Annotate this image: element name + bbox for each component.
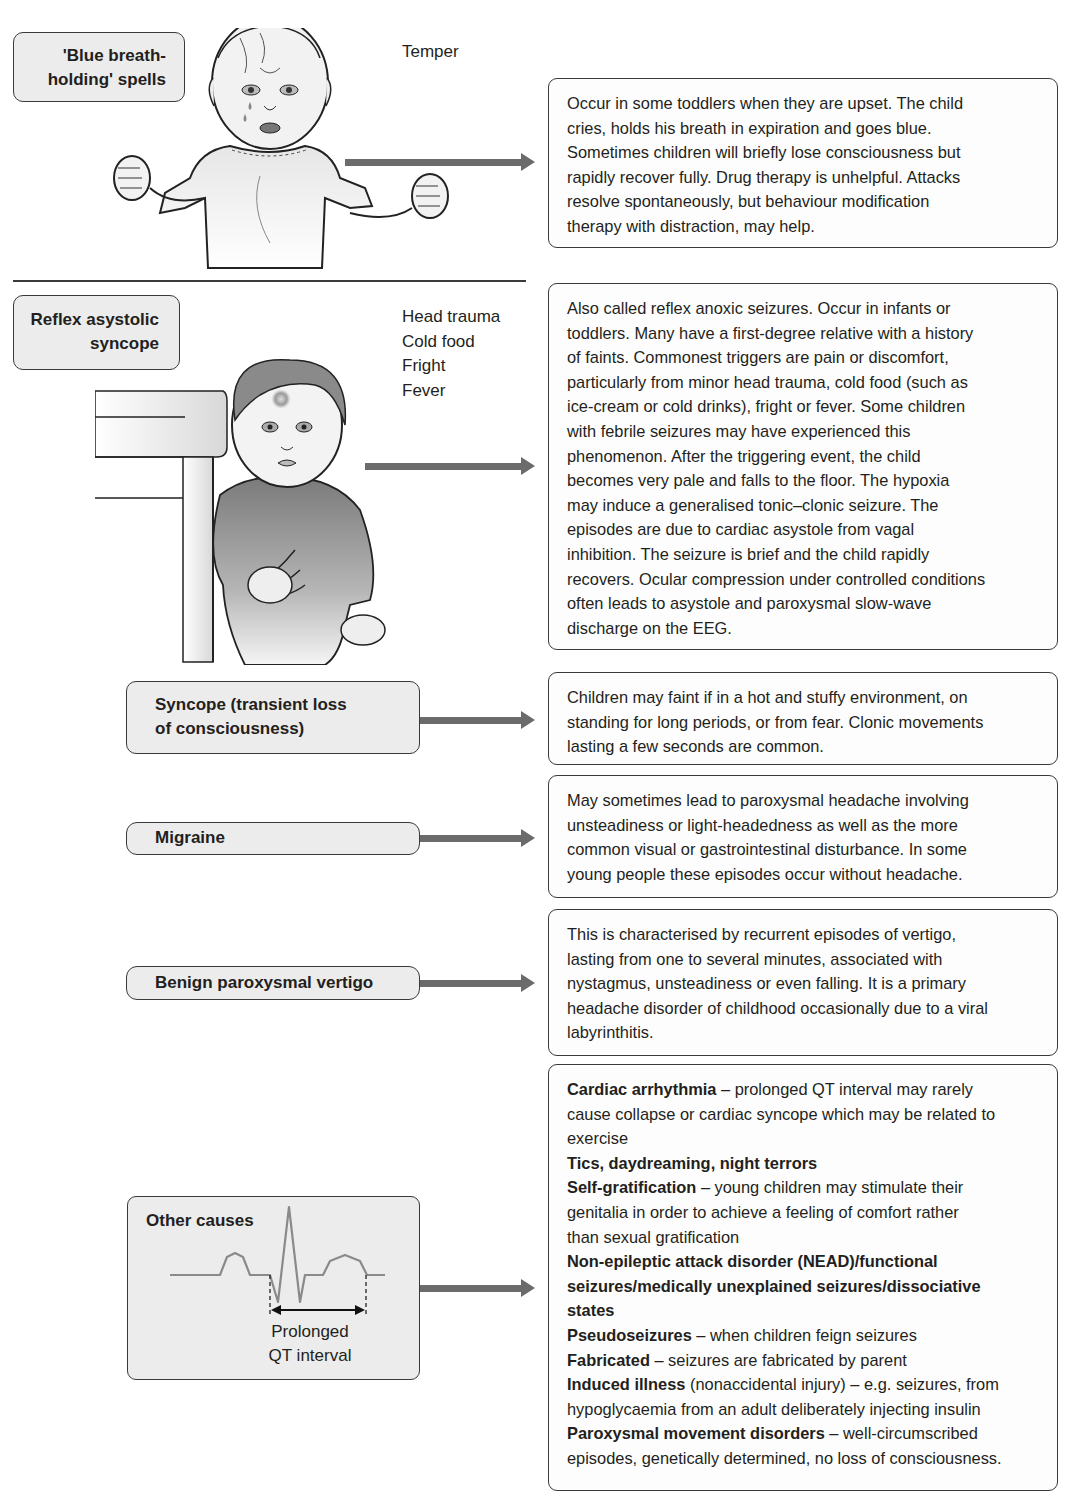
other-item-line: cause collapse or cardiac syncope which … — [567, 1102, 1047, 1127]
other-item-line: Self-gratification – young children may … — [567, 1175, 1047, 1200]
crying-toddler-illustration — [110, 28, 460, 273]
section-divider — [13, 280, 526, 282]
arrow-other-causes — [420, 1285, 523, 1292]
arrow-vertigo — [420, 980, 523, 987]
trigger-head-trauma: Head trauma — [402, 305, 500, 330]
label-benign-paroxysmal-vertigo: Benign paroxysmal vertigo — [126, 966, 420, 1000]
other-item-line: seizures/medically unexplained seizures/… — [567, 1274, 1047, 1299]
arrow-syncope — [420, 717, 523, 724]
pale-toddler-illustration — [95, 335, 435, 665]
description-migraine: May sometimes lead to paroxysmal headach… — [548, 775, 1058, 898]
ecg-caption: Prolonged QT interval — [255, 1320, 365, 1368]
other-item-line: Paroxysmal movement disorders – well-cir… — [567, 1421, 1047, 1446]
other-item-line: Cardiac arrhythmia – prolonged QT interv… — [567, 1077, 1047, 1102]
other-item-line: Pseudoseizures – when children feign sei… — [567, 1323, 1047, 1348]
ecg-prolonged-qt-icon — [165, 1205, 395, 1335]
other-item-line: Fabricated – seizures are fabricated by … — [567, 1348, 1047, 1373]
other-item-line: hypoglycaemia from an adult deliberately… — [567, 1397, 1047, 1422]
description-other-causes: Cardiac arrhythmia – prolonged QT interv… — [548, 1064, 1058, 1491]
other-item-line: Induced illness (nonaccidental injury) –… — [567, 1372, 1047, 1397]
other-item-line: states — [567, 1298, 1047, 1323]
other-item-line: Tics, daydreaming, night terrors — [567, 1151, 1047, 1176]
label-migraine: Migraine — [126, 822, 420, 855]
arrow-breath-holding — [345, 159, 523, 166]
arrow-migraine — [420, 835, 523, 842]
other-item-line: genitalia in order to achieve a feeling … — [567, 1200, 1047, 1225]
other-item-line: exercise — [567, 1126, 1047, 1151]
description-reflex-asystolic-syncope: Also called reflex anoxic seizures. Occu… — [548, 283, 1058, 650]
description-breath-holding-spells: Occur in some toddlers when they are ups… — [548, 78, 1058, 248]
other-item-line: Non-epileptic attack disorder (NEAD)/fun… — [567, 1249, 1047, 1274]
description-benign-paroxysmal-vertigo: This is characterised by recurrent episo… — [548, 909, 1058, 1056]
label-syncope: Syncope (transient loss of consciousness… — [126, 681, 420, 754]
other-item-line: episodes, genetically determined, no los… — [567, 1446, 1047, 1471]
description-syncope: Children may faint if in a hot and stuff… — [548, 672, 1058, 765]
other-item-line: than sexual gratification — [567, 1225, 1047, 1250]
arrow-reflex-asystolic — [365, 463, 523, 470]
